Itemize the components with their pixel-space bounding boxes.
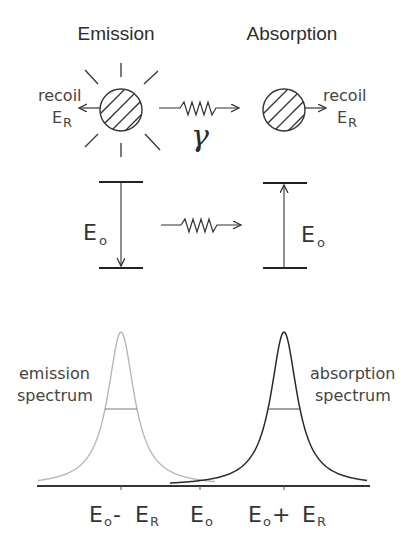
svg-text:+: + bbox=[272, 502, 290, 527]
absorption-spectrum-label-line1: absorption bbox=[310, 364, 395, 383]
svg-text:o: o bbox=[205, 514, 213, 529]
axis-label-eo-plus-er: E o + E R bbox=[248, 502, 326, 529]
emission-rays-icon bbox=[85, 63, 160, 157]
svg-text:E: E bbox=[337, 108, 347, 127]
gamma-symbol: γ bbox=[191, 118, 209, 153]
svg-text:E: E bbox=[52, 108, 62, 127]
emission-spectrum-label-line2: spectrum bbox=[17, 386, 93, 405]
emission-spectrum-label-line1: emission bbox=[19, 364, 90, 383]
absorber-recoil-label: recoil bbox=[323, 86, 367, 105]
svg-text:o: o bbox=[104, 514, 112, 529]
spectrum-plot bbox=[37, 332, 370, 490]
nucleus-circle-icon bbox=[263, 89, 305, 131]
absorber-nucleus bbox=[253, 79, 326, 146]
svg-text:E: E bbox=[301, 222, 315, 247]
emission-level-energy-label: E o bbox=[83, 220, 107, 248]
svg-text:R: R bbox=[63, 115, 72, 130]
absorption-level-energy-label: E o bbox=[301, 222, 325, 250]
svg-text:E: E bbox=[135, 502, 149, 527]
svg-text:-: - bbox=[113, 502, 121, 527]
emitter-recoil-label: recoil bbox=[38, 86, 82, 105]
absorption-heading: Absorption bbox=[247, 23, 338, 44]
svg-text:R: R bbox=[348, 115, 357, 130]
emission-heading: Emission bbox=[77, 23, 154, 44]
svg-text:E: E bbox=[248, 502, 262, 527]
photon-transfer-arrow-icon bbox=[161, 219, 241, 232]
svg-text:o: o bbox=[317, 235, 325, 250]
svg-text:R: R bbox=[317, 514, 326, 529]
absorption-spectrum-curve bbox=[170, 332, 367, 483]
nucleus-circle-icon bbox=[100, 89, 142, 131]
svg-text:o: o bbox=[263, 514, 271, 529]
emission-energy-levels bbox=[99, 182, 143, 268]
absorber-recoil-energy: E R bbox=[337, 108, 357, 130]
emission-spectrum-curve bbox=[38, 332, 215, 482]
mossbauer-diagram: Emission Absorption recoil E R γ bbox=[0, 0, 413, 548]
svg-text:E: E bbox=[302, 502, 316, 527]
svg-text:o: o bbox=[99, 233, 107, 248]
axis-label-eo-minus-er: E o - E R bbox=[89, 502, 159, 529]
axis-label-eo: E o bbox=[190, 502, 213, 529]
emitter-recoil-energy: E R bbox=[52, 108, 72, 130]
emitter-nucleus bbox=[79, 63, 160, 157]
svg-text:E: E bbox=[89, 502, 103, 527]
svg-text:E: E bbox=[83, 220, 97, 245]
absorption-spectrum-label-line2: spectrum bbox=[315, 386, 391, 405]
gamma-photon-arrow-icon bbox=[159, 102, 239, 115]
svg-text:R: R bbox=[150, 514, 159, 529]
svg-text:E: E bbox=[190, 502, 204, 527]
